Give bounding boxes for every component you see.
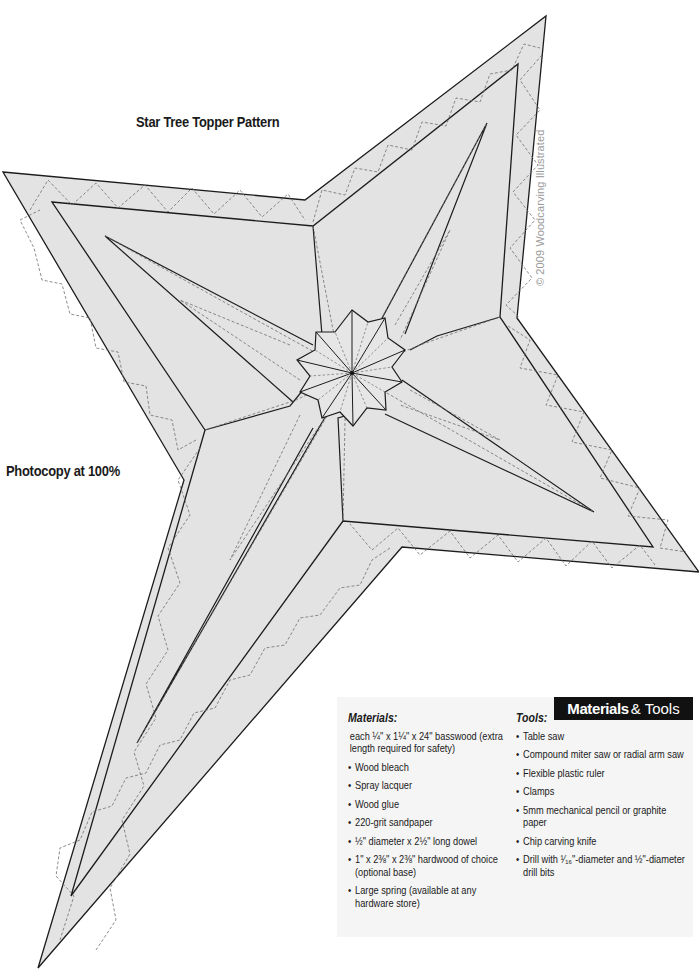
list-item: •Table saw xyxy=(516,730,692,743)
list-item: •Clamps xyxy=(516,785,692,798)
tools-column: Tools: •Table saw •Compound miter saw or… xyxy=(516,712,692,884)
tools-list: •Table saw •Compound miter saw or radial… xyxy=(516,730,692,879)
list-item: •½" diameter x 2½" long dowel xyxy=(348,835,515,848)
list-item: •Compound miter saw or radial arm saw xyxy=(516,748,692,761)
list-item: •220-grit sandpaper xyxy=(348,816,515,829)
list-item: each ¼" x 1¼" x 24" basswood (extra leng… xyxy=(348,730,515,755)
tools-heading: Tools: xyxy=(516,712,692,725)
materials-column: Materials: each ¼" x 1¼" x 24" basswood … xyxy=(348,712,515,915)
list-item: •5mm mechanical pencil or graphite paper xyxy=(516,804,692,829)
list-item: •Wood glue xyxy=(348,798,515,811)
list-item: •Spray lacquer xyxy=(348,779,515,792)
photocopy-instruction: Photocopy at 100% xyxy=(6,462,120,479)
list-item: •1" x 2⅜" x 2⅜" hardwood of choice (opti… xyxy=(348,853,515,878)
list-item: •Drill with ¹⁄₁₆"-diameter and ½"-diamet… xyxy=(516,853,692,878)
list-item: •Flexible plastic ruler xyxy=(516,767,692,780)
list-item: •Large spring (available at any hardware… xyxy=(348,884,515,909)
copyright-notice: © 2009 Woodcarving Illustrated xyxy=(534,130,546,286)
list-item: •Chip carving knife xyxy=(516,835,692,848)
list-item: •Wood bleach xyxy=(348,761,515,774)
materials-list: each ¼" x 1¼" x 24" basswood (extra leng… xyxy=(348,730,515,910)
pattern-title: Star Tree Topper Pattern xyxy=(136,113,279,130)
materials-heading: Materials: xyxy=(348,712,515,725)
